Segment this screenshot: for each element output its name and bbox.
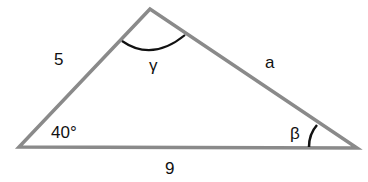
angle-label-left: 40° [51,124,77,141]
gamma-angle-arc [122,35,185,50]
side-label-left: 5 [54,51,63,68]
beta-angle-arc [309,125,317,147]
angle-label-top: γ [149,57,158,74]
angle-label-right: β [290,125,300,142]
triangle-diagram [0,0,368,182]
side-label-base: 9 [165,160,174,177]
side-label-right: a [265,54,274,71]
